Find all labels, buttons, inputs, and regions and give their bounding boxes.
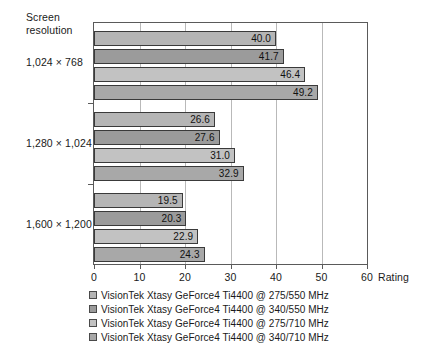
bar-chart: Screen resolution 1,024 × 7681,280 × 1,0… [0, 0, 430, 362]
legend-label: VisionTek Xtasy GeForce4 Ti4400 @ 275/71… [101, 318, 329, 329]
bar-value-label: 20.3 [161, 213, 185, 224]
x-axis-tick [185, 265, 186, 269]
x-axis-tick-label: 20 [179, 271, 191, 283]
bar: 27.6 [94, 130, 220, 146]
bar-value-label: 31.0 [210, 150, 234, 161]
x-axis-tick-label: 0 [91, 271, 97, 283]
bar: 40.0 [94, 31, 276, 47]
x-axis-tick [276, 265, 277, 269]
bar-value-label: 27.6 [195, 132, 219, 143]
legend-label: VisionTek Xtasy GeForce4 Ti4400 @ 275/55… [101, 290, 329, 301]
bar: 31.0 [94, 148, 235, 164]
legend-label: VisionTek Xtasy GeForce4 Ti4400 @ 340/55… [101, 304, 329, 315]
legend: VisionTek Xtasy GeForce4 Ti4400 @ 275/55… [89, 288, 329, 344]
y-axis-title: Screen resolution [26, 11, 73, 37]
bar: 26.6 [94, 112, 215, 128]
bar-value-label: 49.2 [293, 87, 317, 98]
x-axis-tick [140, 265, 141, 269]
category-label: 1,024 × 768 [26, 56, 83, 68]
bar: 46.4 [94, 67, 305, 83]
legend-item: VisionTek Xtasy GeForce4 Ti4400 @ 340/71… [89, 330, 329, 344]
legend-swatch-icon [89, 333, 97, 341]
legend-item: VisionTek Xtasy GeForce4 Ti4400 @ 275/71… [89, 316, 329, 330]
y-axis-tick [88, 184, 93, 185]
x-axis-tick-label: 60 [361, 271, 373, 283]
legend-swatch-icon [89, 291, 97, 299]
x-axis-tick [367, 265, 368, 269]
bar-value-label: 22.9 [173, 231, 197, 242]
x-axis-tick [94, 265, 95, 269]
category-label: 1,280 × 1,024 [26, 137, 92, 149]
bar: 20.3 [94, 211, 186, 227]
y-axis-tick [88, 103, 93, 104]
bar-value-label: 32.9 [219, 168, 243, 179]
x-axis-tick-label: 10 [134, 271, 146, 283]
bar-value-label: 26.6 [190, 114, 214, 125]
category-label: 1,600 × 1,200 [26, 218, 92, 230]
x-axis-tick-label: 30 [225, 271, 237, 283]
bar-value-label: 41.7 [259, 51, 283, 62]
bar: 19.5 [94, 193, 183, 209]
bar-value-label: 46.4 [280, 69, 304, 80]
bar: 41.7 [94, 49, 284, 65]
legend-swatch-icon [89, 319, 97, 327]
x-axis-tick-label: 50 [316, 271, 328, 283]
bar: 32.9 [94, 166, 244, 182]
bar: 24.3 [94, 247, 205, 263]
x-axis-tick [322, 265, 323, 269]
x-axis-title: Rating [378, 271, 409, 283]
x-axis-tick [231, 265, 232, 269]
legend-swatch-icon [89, 305, 97, 313]
bar-value-label: 19.5 [158, 195, 182, 206]
plot-area: 40.041.746.449.226.627.631.032.919.520.3… [93, 22, 368, 265]
gridline [322, 23, 323, 264]
x-axis-tick-label: 40 [270, 271, 282, 283]
legend-item: VisionTek Xtasy GeForce4 Ti4400 @ 340/55… [89, 302, 329, 316]
legend-label: VisionTek Xtasy GeForce4 Ti4400 @ 340/71… [101, 332, 329, 343]
legend-item: VisionTek Xtasy GeForce4 Ti4400 @ 275/55… [89, 288, 329, 302]
bar: 49.2 [94, 85, 318, 101]
bar: 22.9 [94, 229, 198, 245]
bar-value-label: 24.3 [180, 249, 204, 260]
bar-value-label: 40.0 [251, 33, 275, 44]
